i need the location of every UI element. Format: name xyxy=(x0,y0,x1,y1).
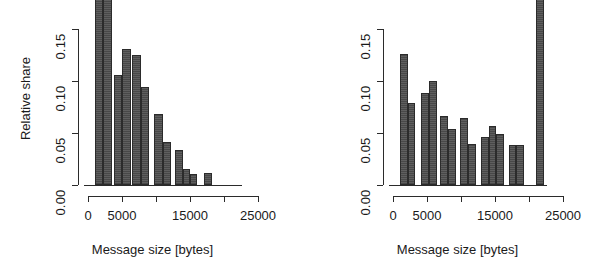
x-axis-tick-label: 25000 xyxy=(240,209,276,222)
x-axis-right xyxy=(393,196,563,197)
x-axis-title-left: Message size [bytes] xyxy=(92,243,213,257)
histogram-bar xyxy=(132,55,141,185)
x-axis-tick-label: 25000 xyxy=(545,209,581,222)
bar-series-left xyxy=(0,0,305,195)
y-axis-tick-label: 0.00 xyxy=(54,186,67,220)
histogram-bar xyxy=(460,118,468,185)
x-axis-tick xyxy=(258,196,259,202)
histogram-bar xyxy=(429,81,437,185)
histogram-bar xyxy=(481,137,489,185)
histogram-bar xyxy=(190,174,197,185)
figure-two-histograms: 0.150.100.050.00 050001500025000 Message… xyxy=(0,0,610,269)
histogram-bar xyxy=(103,0,112,185)
y-axis-tick xyxy=(72,133,78,134)
x-axis-left xyxy=(88,196,258,197)
x-axis-tick-label: 5000 xyxy=(108,209,137,222)
x-axis-tick xyxy=(190,196,191,202)
panel-left: 0.150.100.050.00 050001500025000 Message… xyxy=(0,0,305,269)
plot-area-left xyxy=(0,0,305,195)
y-axis-tick-label: 0.10 xyxy=(54,82,67,116)
histogram-bar xyxy=(175,150,184,185)
histogram-bar xyxy=(448,129,456,185)
y-axis-tick xyxy=(72,185,78,186)
x-axis-tick xyxy=(563,196,564,202)
x-axis-tick xyxy=(393,196,394,202)
y-axis-tick xyxy=(377,185,383,186)
y-axis-right xyxy=(383,29,384,185)
histogram-bar xyxy=(440,116,448,185)
histogram-bar xyxy=(114,75,123,185)
x-axis-tick-label: 0 xyxy=(84,209,91,222)
histogram-bar xyxy=(516,145,524,185)
plot-area-right xyxy=(305,0,610,195)
y-axis-tick-label: 0.15 xyxy=(54,30,67,64)
histogram-bar xyxy=(122,49,131,185)
x-axis-tick xyxy=(156,196,157,202)
y-axis-tick xyxy=(377,29,383,30)
baseline-left xyxy=(84,185,242,186)
y-axis-tick-label: 0.15 xyxy=(359,30,372,64)
histogram-bar xyxy=(468,144,476,185)
x-axis-tick xyxy=(495,196,496,202)
y-axis-tick xyxy=(72,81,78,82)
x-axis-tick xyxy=(88,196,89,202)
x-axis-tick xyxy=(427,196,428,202)
histogram-bar xyxy=(408,103,416,185)
x-axis-tick-label: 15000 xyxy=(172,209,208,222)
y-axis-tick-label: 0.00 xyxy=(359,186,372,220)
x-axis-tick xyxy=(461,196,462,202)
histogram-bar xyxy=(489,126,497,185)
y-axis-left xyxy=(78,29,79,185)
x-axis-tick-label: 0 xyxy=(389,209,396,222)
histogram-bar xyxy=(95,0,104,185)
y-axis-tick-label: 0.10 xyxy=(359,82,372,116)
x-axis-tick xyxy=(529,196,530,202)
histogram-bar xyxy=(400,54,408,185)
x-axis-tick xyxy=(224,196,225,202)
bar-series-right xyxy=(305,0,610,195)
histogram-bar xyxy=(204,173,213,185)
x-axis-title-right: Message size [bytes] xyxy=(397,243,518,257)
y-axis-tick xyxy=(377,81,383,82)
x-axis-tick-label: 5000 xyxy=(413,209,442,222)
y-axis-tick-label: 0.05 xyxy=(54,134,67,168)
histogram-bar xyxy=(496,134,504,185)
histogram-bar xyxy=(163,142,172,185)
y-axis-title-left: Relative share xyxy=(19,44,32,154)
histogram-bar xyxy=(141,87,150,185)
histogram-bar xyxy=(183,169,190,185)
baseline-right xyxy=(389,185,547,186)
y-axis-tick xyxy=(377,133,383,134)
histogram-bar xyxy=(154,114,163,185)
panel-right: 0.150.100.050.00 050001500025000 Message… xyxy=(305,0,610,269)
histogram-bar xyxy=(421,93,429,185)
x-axis-tick-label: 15000 xyxy=(477,209,513,222)
histogram-bar xyxy=(509,145,517,185)
y-axis-tick xyxy=(72,29,78,30)
y-axis-tick-label: 0.05 xyxy=(359,134,372,168)
histogram-bar xyxy=(536,0,544,185)
x-axis-tick xyxy=(122,196,123,202)
